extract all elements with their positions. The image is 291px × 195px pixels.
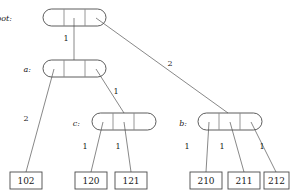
leaf-node-212[interactable]: 212: [264, 172, 289, 189]
edge-label-b-to-leaf-210: 1: [184, 142, 189, 151]
edge-label-c-to-leaf-120: 1: [82, 142, 87, 151]
edge-label-root-to-a: 1: [63, 34, 68, 43]
leaf-node-120[interactable]: 120: [75, 172, 107, 189]
edge-root-to-b: [96, 18, 228, 113]
edge-b-to-leaf-210: [206, 122, 209, 172]
internal-node-b[interactable]: b:: [179, 113, 262, 130]
edge-label-a-to-c: 1: [113, 87, 118, 96]
leaf-node-102[interactable]: 102: [10, 172, 42, 189]
edge-label-b-to-leaf-212: 1: [259, 142, 264, 151]
internal-node-a[interactable]: a:: [24, 60, 106, 77]
edge-c-to-leaf-121: [124, 122, 131, 172]
node-label-b: b:: [179, 119, 187, 128]
leaf-value: 120: [82, 176, 99, 186]
edge-label-b-to-leaf-211: 1: [219, 142, 224, 151]
internal-node-root[interactable]: root:: [0, 9, 106, 26]
node-label-root: root:: [0, 14, 12, 23]
trie-diagram: root:a:c:b: 102120121210211212 122111111: [0, 0, 291, 195]
leaf-node-211[interactable]: 211: [228, 172, 260, 189]
node-capsule: [43, 9, 106, 26]
diagram-canvas: root:a:c:b: 102120121210211212 122111111: [0, 0, 291, 195]
edge-label-c-to-leaf-121: 1: [115, 142, 120, 151]
leaf-value: 212: [268, 176, 285, 186]
node-capsule: [198, 113, 262, 130]
internal-nodes-layer: root:a:c:b:: [0, 9, 262, 130]
node-label-a: a:: [24, 65, 32, 74]
edge-b-to-leaf-211: [230, 122, 244, 172]
leaf-nodes-layer: 102120121210211212: [10, 172, 289, 189]
leaf-value: 211: [235, 176, 252, 186]
leaf-node-210[interactable]: 210: [190, 172, 222, 189]
leaf-value: 102: [17, 176, 34, 186]
leaf-node-121[interactable]: 121: [115, 172, 147, 189]
internal-node-c[interactable]: c:: [73, 113, 156, 130]
leaf-value: 210: [197, 176, 214, 186]
edge-labels-layer: 122111111: [23, 34, 264, 151]
edge-a-to-c: [96, 69, 124, 113]
node-label-c: c:: [73, 119, 80, 128]
leaf-value: 121: [122, 176, 139, 186]
edge-label-root-to-b: 2: [167, 59, 172, 68]
edge-label-a-to-leaf-102: 2: [23, 114, 28, 123]
edge-a-to-leaf-102: [26, 69, 54, 172]
